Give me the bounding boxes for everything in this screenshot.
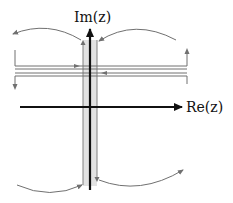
upper-left-arc (13, 28, 81, 40)
imag-axis-label: Im(z) (74, 9, 111, 25)
horizontal-contour-pair (15, 64, 187, 76)
upper-line-right-arrow-icon (74, 64, 80, 68)
down-arrow-icon (13, 84, 18, 90)
lower-left-arc (17, 185, 82, 193)
lower-line-left-arrow-icon (101, 71, 107, 75)
complex-plane-diagram: Im(z) Re(z) (0, 0, 233, 203)
real-axis-label: Re(z) (186, 99, 223, 115)
upper-right-arc (99, 29, 176, 41)
up-arrow-icon (185, 48, 190, 54)
left-end-segment (13, 50, 18, 90)
lower-right-arc (99, 170, 183, 186)
